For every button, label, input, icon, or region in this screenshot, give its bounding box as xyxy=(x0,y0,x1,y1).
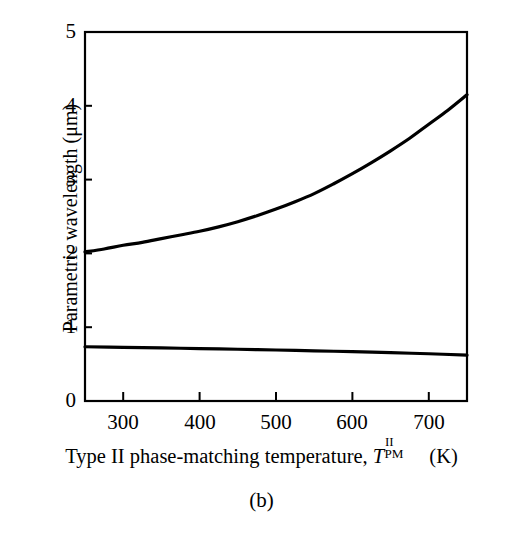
curve-idler xyxy=(85,95,467,252)
x-axis-title-subscript: PM xyxy=(384,446,403,462)
x-tick-label-300: 300 xyxy=(93,412,153,433)
curve-signal xyxy=(85,347,467,355)
x-axis-title-prefix: Type II phase-matching temperature, xyxy=(65,445,373,467)
x-tick-label-500: 500 xyxy=(246,412,306,433)
y-tick-label-1: 1 xyxy=(48,316,76,337)
y-tick-label-2: 2 xyxy=(48,242,76,263)
x-axis-title-suffix: (K) xyxy=(424,445,458,467)
figure-panel-b: Parametric wavelength (μm) xyxy=(0,0,523,538)
x-axis-title: Type II phase-matching temperature, TIIP… xyxy=(0,442,523,468)
x-axis-ticks xyxy=(123,392,429,401)
axis-frame xyxy=(85,32,467,401)
panel-caption: (b) xyxy=(0,490,523,511)
y-tick-label-3: 3 xyxy=(48,169,76,190)
x-axis-title-affixes: IIPM xyxy=(384,442,424,463)
x-axis-title-symbol: T xyxy=(373,445,384,467)
y-tick-label-0: 0 xyxy=(48,390,76,411)
x-tick-label-600: 600 xyxy=(322,412,382,433)
data-curves xyxy=(85,95,467,355)
y-tick-label-4: 4 xyxy=(48,95,76,116)
y-tick-label-5: 5 xyxy=(48,21,76,42)
x-tick-label-700: 700 xyxy=(399,412,459,433)
x-tick-label-400: 400 xyxy=(170,412,230,433)
